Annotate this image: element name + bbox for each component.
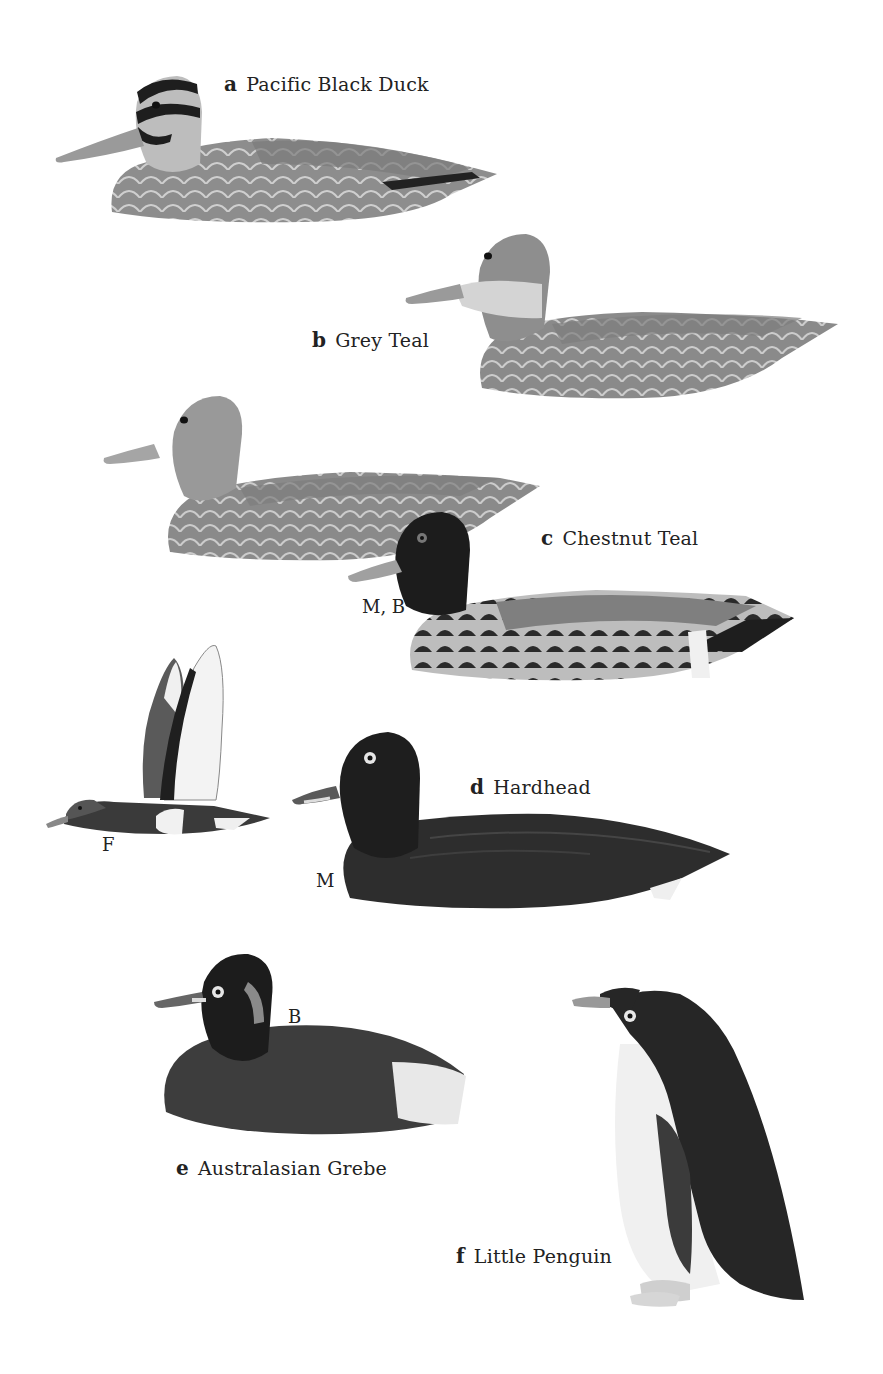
- species-label-a: aPacific Black Duck: [224, 72, 429, 96]
- species-letter: f: [456, 1244, 465, 1268]
- species-letter: d: [470, 775, 484, 799]
- species-letter: c: [541, 526, 553, 550]
- species-letter: b: [312, 328, 326, 352]
- australasian-grebe-illustration: [152, 952, 468, 1136]
- species-name: Australasian Grebe: [198, 1157, 387, 1179]
- breeding-tag: B: [288, 1006, 301, 1027]
- species-name: Pacific Black Duck: [246, 73, 429, 95]
- hardhead-male-illustration: [290, 728, 732, 910]
- species-letter: a: [224, 72, 237, 96]
- species-name: Little Penguin: [474, 1245, 612, 1267]
- species-label-f: fLittle Penguin: [456, 1244, 612, 1268]
- field-guide-plate: aPacific Black Duck bGrey Teal: [0, 0, 883, 1374]
- sex-tag-male: M: [316, 870, 334, 891]
- species-label-e: eAustralasian Grebe: [176, 1156, 387, 1180]
- species-name: Chestnut Teal: [562, 527, 698, 549]
- hardhead-female-flying-illustration: [44, 638, 274, 842]
- species-name: Grey Teal: [335, 329, 429, 351]
- species-name: Hardhead: [493, 776, 591, 798]
- species-letter: e: [176, 1156, 189, 1180]
- species-label-b: bGrey Teal: [312, 328, 429, 352]
- species-label-d: dHardhead: [470, 775, 591, 799]
- grey-teal-illustration: [402, 228, 842, 404]
- sex-tag-female: F: [102, 834, 115, 855]
- species-label-c: cChestnut Teal: [541, 526, 698, 550]
- sex-breeding-tag: M, B: [362, 596, 405, 617]
